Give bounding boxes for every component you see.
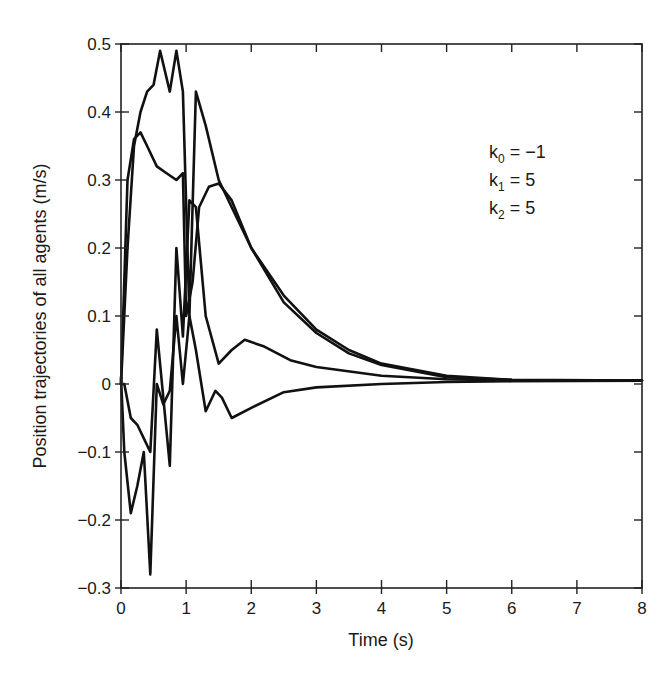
x-tick-label: 5 — [442, 599, 451, 618]
parameter-annotations: k0 = −1k1 = 5k2 = 5 — [489, 142, 546, 222]
agent-trajectory — [121, 316, 642, 574]
data-curves — [121, 51, 642, 575]
gain-annotation: k0 = −1 — [489, 142, 546, 166]
y-tick-label: 0.4 — [87, 103, 111, 122]
gain-annotation: k1 = 5 — [489, 170, 535, 194]
y-tick-label: −0.2 — [77, 511, 111, 530]
y-tick-label: 0.3 — [87, 171, 111, 190]
x-tick-label: 3 — [312, 599, 321, 618]
y-tick-label: −0.3 — [77, 579, 111, 598]
chart-canvas: 012345678 −0.3−0.2−0.100.10.20.30.40.5 T… — [0, 0, 667, 682]
y-axis-ticks: −0.3−0.2−0.100.10.20.30.40.5 — [77, 35, 642, 598]
x-tick-label: 0 — [116, 599, 125, 618]
x-axis-title: Time (s) — [348, 630, 413, 650]
x-tick-label: 6 — [507, 599, 516, 618]
y-tick-label: 0.1 — [87, 307, 111, 326]
x-tick-label: 8 — [637, 599, 646, 618]
agent-trajectory — [121, 200, 642, 465]
y-tick-label: −0.1 — [77, 443, 111, 462]
x-tick-label: 4 — [377, 599, 386, 618]
x-tick-label: 2 — [247, 599, 256, 618]
y-axis-title: Position trajectories of all agents (m/s… — [30, 163, 50, 468]
y-tick-label: 0.5 — [87, 35, 111, 54]
gain-annotation: k2 = 5 — [489, 198, 535, 222]
plot-frame — [121, 44, 642, 588]
y-tick-label: 0 — [102, 375, 111, 394]
agent-trajectory — [121, 132, 642, 384]
x-tick-label: 1 — [181, 599, 190, 618]
x-tick-label: 7 — [572, 599, 581, 618]
y-tick-label: 0.2 — [87, 239, 111, 258]
